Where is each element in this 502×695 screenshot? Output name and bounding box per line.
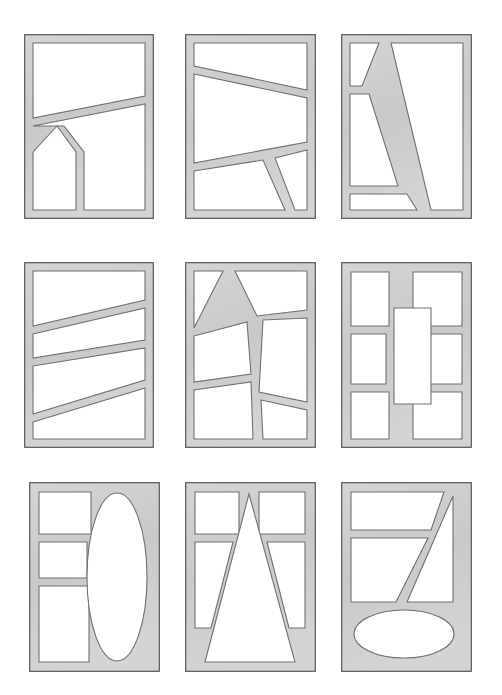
glass-light [194, 382, 253, 439]
glass-light [195, 492, 239, 534]
glass-light [351, 334, 386, 384]
glass-light [39, 542, 87, 578]
pattern-sheet [0, 0, 502, 695]
glass-light-ellipse [354, 610, 454, 658]
panel-top-right [341, 34, 472, 219]
panel-middle-center [185, 262, 316, 448]
glass-light [351, 392, 389, 439]
glass-light [351, 492, 444, 530]
glass-light-ellipse [87, 493, 147, 661]
panel-bottom-right [341, 482, 472, 672]
glass-light [259, 492, 305, 534]
panel-top-left [24, 34, 154, 219]
glass-light [351, 272, 389, 326]
glass-light [394, 308, 431, 404]
panel-middle-right [341, 262, 472, 448]
panel-bottom-left [29, 482, 160, 672]
glass-light [259, 318, 307, 402]
panel-bottom-center [185, 482, 316, 672]
panel-top-center [185, 34, 316, 219]
glass-light [350, 194, 417, 210]
glass-light [39, 492, 91, 534]
panel-middle-left [24, 262, 154, 448]
glass-light [39, 586, 89, 662]
